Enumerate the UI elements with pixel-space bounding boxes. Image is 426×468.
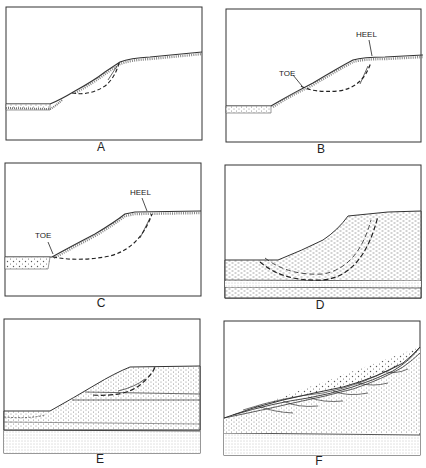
toe-label-b: TOE	[279, 69, 295, 78]
heel-label-c: HEEL	[130, 188, 151, 197]
panel-c: TOE HEEL C	[0, 150, 213, 310]
slope-diagram-d	[213, 150, 426, 310]
panel-b: TOE HEEL B	[213, 0, 426, 150]
panel-f: F	[213, 305, 426, 464]
slope-diagram-a	[0, 0, 213, 150]
panel-label-e: E	[90, 452, 110, 466]
slope-diagram-c: TOE HEEL	[0, 150, 213, 310]
panel-e: E	[0, 305, 213, 464]
panel-d: D	[213, 150, 426, 310]
slope-diagram-e	[0, 305, 213, 464]
heel-label-b: HEEL	[356, 30, 377, 39]
panel-a: A	[0, 0, 213, 150]
panel-label-f: F	[309, 454, 329, 468]
slope-diagram-f	[213, 305, 426, 464]
slope-diagram-b: TOE HEEL	[213, 0, 426, 150]
toe-label-c: TOE	[35, 231, 51, 240]
